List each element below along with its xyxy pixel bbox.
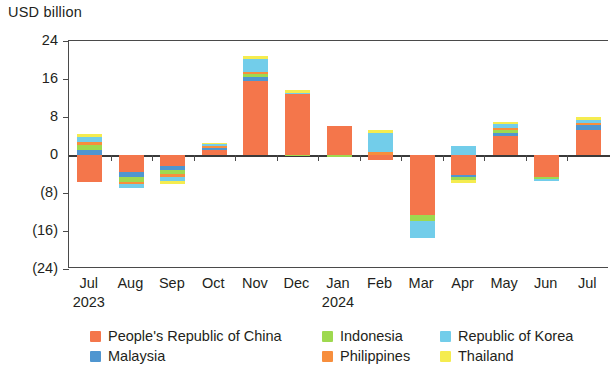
x-axis-tick	[318, 155, 319, 161]
bar-segment[interactable]	[77, 155, 102, 182]
legend-label: Republic of Korea	[458, 329, 573, 344]
bar-segment[interactable]	[77, 134, 102, 137]
bar-group[interactable]	[243, 41, 268, 267]
bar-segment[interactable]	[576, 123, 601, 125]
bar-segment[interactable]	[202, 148, 227, 149]
bar-segment[interactable]	[77, 150, 102, 155]
bar-segment[interactable]	[160, 155, 185, 166]
bar-group[interactable]	[77, 41, 102, 267]
bar-group[interactable]	[368, 41, 393, 267]
x-axis-label: Jul	[79, 275, 98, 291]
legend-item[interactable]: Malaysia	[90, 349, 322, 364]
x-axis-tick	[277, 155, 278, 161]
bar-segment[interactable]	[285, 155, 310, 156]
legend-label: Thailand	[458, 349, 514, 364]
y-axis-tick	[63, 231, 69, 232]
y-axis-label: (16)	[0, 222, 58, 238]
bar-segment[interactable]	[243, 77, 268, 81]
y-axis-label: 24	[0, 32, 58, 48]
y-axis-label: 16	[0, 70, 58, 86]
bar-segment[interactable]	[327, 155, 352, 157]
legend-label: Philippines	[340, 349, 410, 364]
bar-group[interactable]	[534, 41, 559, 267]
bar-segment[interactable]	[534, 179, 559, 181]
bar-segment[interactable]	[160, 181, 185, 184]
x-axis-tick	[111, 155, 112, 161]
x-axis-label: Sep	[159, 275, 185, 291]
legend-swatch-icon	[322, 331, 333, 342]
bar-segment[interactable]	[410, 155, 435, 215]
x-axis-tick	[235, 155, 236, 161]
x-axis-year-label: 2024	[322, 294, 354, 310]
y-axis-label: (24)	[0, 260, 58, 276]
bar-segment[interactable]	[368, 133, 393, 152]
x-axis-tick	[567, 155, 568, 161]
bar-group[interactable]	[576, 41, 601, 267]
legend-swatch-icon	[440, 351, 451, 362]
bar-segment[interactable]	[534, 155, 559, 177]
bar-segment[interactable]	[493, 136, 518, 155]
legend-item[interactable]: Republic of Korea	[440, 329, 600, 344]
bar-segment[interactable]	[285, 93, 310, 94]
x-axis-label: Oct	[202, 275, 225, 291]
y-axis-tick	[63, 41, 69, 42]
bar-segment[interactable]	[493, 130, 518, 133]
x-axis-label: Aug	[117, 275, 143, 291]
x-axis-label: Feb	[367, 275, 392, 291]
x-axis-label: Dec	[284, 275, 310, 291]
bar-segment[interactable]	[243, 74, 268, 76]
y-axis-label: (8)	[0, 184, 58, 200]
bar-segment[interactable]	[368, 130, 393, 133]
legend-swatch-icon	[90, 331, 101, 342]
bar-segment[interactable]	[368, 155, 393, 160]
x-axis-label: Nov	[242, 275, 268, 291]
bar-segment[interactable]	[243, 72, 268, 74]
bar-group[interactable]	[160, 41, 185, 267]
bar-segment[interactable]	[576, 120, 601, 123]
bar-segment[interactable]	[493, 122, 518, 124]
bar-segment[interactable]	[285, 90, 310, 93]
bar-segment[interactable]	[119, 155, 144, 172]
bar-segment[interactable]	[493, 124, 518, 128]
bar-segment[interactable]	[451, 180, 476, 182]
bar-segment[interactable]	[243, 56, 268, 59]
x-axis-label: Jul	[578, 275, 597, 291]
bar-segment[interactable]	[410, 221, 435, 238]
bar-segment[interactable]	[243, 81, 268, 155]
legend-item[interactable]: People's Republic of China	[90, 329, 322, 344]
bar-segment[interactable]	[77, 137, 102, 142]
bar-segment[interactable]	[202, 150, 227, 155]
legend-item[interactable]: Indonesia	[322, 329, 440, 344]
bar-segment[interactable]	[202, 143, 227, 144]
bar-segment[interactable]	[451, 155, 476, 175]
bar-group[interactable]	[285, 41, 310, 267]
bar-group[interactable]	[202, 41, 227, 267]
bar-segment[interactable]	[202, 144, 227, 146]
x-axis-label: Apr	[451, 275, 474, 291]
bar-group[interactable]	[451, 41, 476, 267]
bar-group[interactable]	[119, 41, 144, 267]
bar-group[interactable]	[493, 41, 518, 267]
bar-segment[interactable]	[327, 126, 352, 155]
bar-segment[interactable]	[493, 128, 518, 130]
legend-item[interactable]: Philippines	[322, 349, 440, 364]
bar-segment[interactable]	[77, 145, 102, 150]
x-axis-tick	[443, 155, 444, 161]
bar-segment[interactable]	[202, 146, 227, 148]
bar-segment[interactable]	[77, 142, 102, 144]
bar-segment[interactable]	[451, 146, 476, 155]
bar-segment[interactable]	[243, 59, 268, 73]
bar-segment[interactable]	[576, 125, 601, 130]
bar-segment[interactable]	[368, 152, 393, 155]
y-axis-label: 8	[0, 108, 58, 124]
bar-segment[interactable]	[576, 117, 601, 120]
bar-segment[interactable]	[119, 184, 144, 188]
bar-group[interactable]	[327, 41, 352, 267]
bar-segment[interactable]	[576, 130, 601, 155]
bar-segment[interactable]	[493, 133, 518, 136]
legend-item[interactable]: Thailand	[440, 349, 600, 364]
bar-segment[interactable]	[285, 94, 310, 155]
bar-group[interactable]	[410, 41, 435, 267]
plot-frame	[68, 40, 608, 268]
